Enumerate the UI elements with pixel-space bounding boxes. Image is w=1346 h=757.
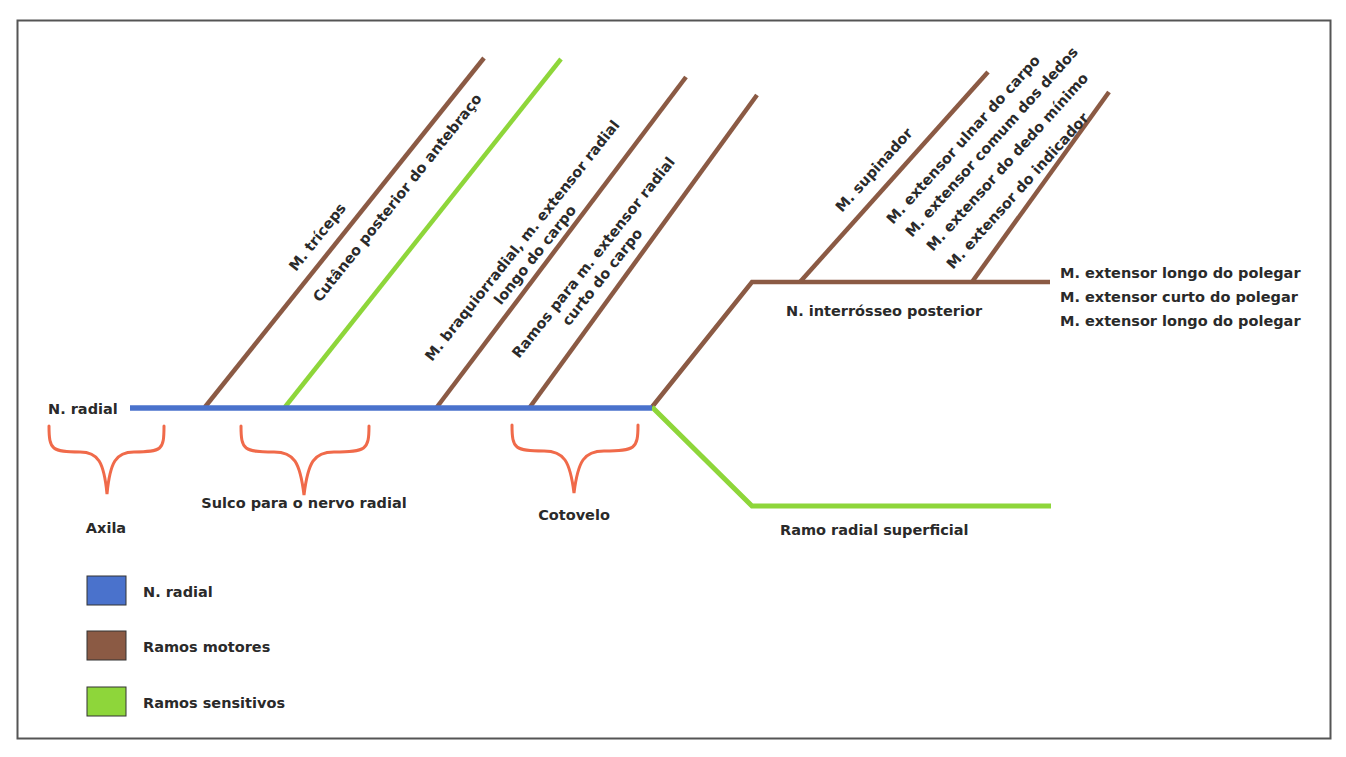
legend-swatch-sensory xyxy=(87,687,126,716)
legend: N. radial Ramos motores Ramos sensitivos xyxy=(87,576,285,716)
brace-axila xyxy=(49,426,164,494)
branch-ecrb-line xyxy=(530,95,757,407)
legend-swatch-radial xyxy=(87,576,126,605)
radial-nerve-diagram: N. radial Axila Sulco para o nervo radia… xyxy=(0,0,1346,757)
posterior-interosseous-label: N. interrósseo posterior xyxy=(786,303,983,319)
upper-branches xyxy=(205,58,757,407)
posterior-interosseous-line xyxy=(652,282,1050,407)
superficial-branch-label: Ramo radial superficial xyxy=(780,522,969,538)
legend-label-sensory: Ramos sensitivos xyxy=(143,695,285,711)
region-label-cotovelo: Cotovelo xyxy=(538,507,610,523)
branch-triceps-line xyxy=(205,58,484,407)
region-braces xyxy=(49,425,638,495)
legend-label-radial: N. radial xyxy=(143,584,213,600)
brace-cotovelo xyxy=(512,425,638,493)
legend-label-motor: Ramos motores xyxy=(143,639,270,655)
brace-sulco xyxy=(241,426,369,495)
terminal-label-1: M. extensor longo do polegar xyxy=(1060,265,1301,281)
terminal-label-2: M. extensor curto do polegar xyxy=(1060,289,1299,305)
terminal-label-3: M. extensor longo do polegar xyxy=(1060,313,1301,329)
main-nerve-label: N. radial xyxy=(48,401,118,417)
region-label-axila: Axila xyxy=(86,520,126,536)
superficial-radial-line xyxy=(652,407,1051,506)
branch-label-cutaneous: Cutâneo posterior do antebraço xyxy=(310,91,485,305)
legend-swatch-motor xyxy=(87,631,126,660)
region-label-sulco: Sulco para o nervo radial xyxy=(201,495,406,511)
branch-label-brachioradialis-l1: M. braquiorradial, m. extensor radial xyxy=(422,117,623,364)
